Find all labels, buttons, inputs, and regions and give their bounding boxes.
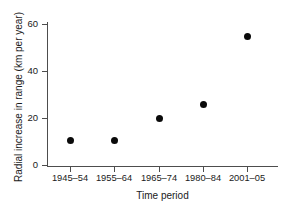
data-point bbox=[244, 33, 251, 40]
scatter-chart: 0 20 40 60 1945–54 1955–64 1965–74 1980–… bbox=[0, 0, 283, 213]
plot-area bbox=[0, 0, 283, 213]
data-point bbox=[67, 137, 74, 144]
data-point bbox=[200, 101, 207, 108]
data-point bbox=[111, 137, 118, 144]
data-point bbox=[156, 115, 163, 122]
